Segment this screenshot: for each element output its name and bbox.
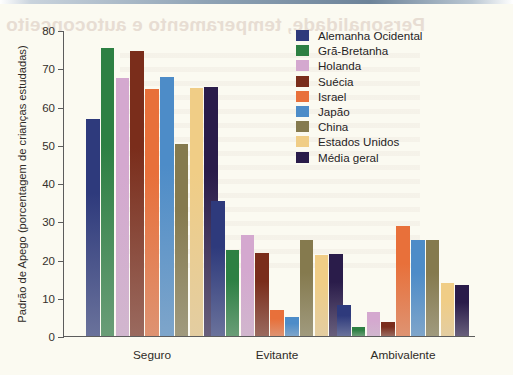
bar (367, 312, 381, 336)
bar (270, 310, 284, 336)
bar (285, 317, 299, 336)
bar (116, 78, 130, 336)
bar-fill (211, 201, 225, 336)
y-axis-title: Padrão de Apego (porcentagem de crianças… (14, 31, 30, 337)
legend-item-label: China (318, 120, 348, 133)
legend-item-label: Japão (318, 105, 350, 118)
y-axis-tick-label: 30 (42, 216, 55, 228)
bar-fill (300, 240, 314, 336)
legend-item: Grã-Bretanha (296, 43, 422, 58)
legend-item-label: Média geral (318, 151, 379, 164)
x-axis-category-label: Evitante (256, 348, 299, 362)
legend-swatch (296, 121, 309, 132)
bar-fill (190, 88, 204, 336)
legend-item-label: Grã-Bretanha (318, 44, 388, 57)
chart-figure: Personalidade, temperamento e autoconcei… (0, 0, 513, 375)
legend: Alemanha OcidentalGrã-BretanhaHolandaSué… (296, 28, 422, 165)
bar (241, 235, 255, 336)
x-axis-category-label: Ambivalente (371, 348, 436, 362)
bar (455, 285, 469, 336)
bar-fill (241, 235, 255, 336)
y-axis-tick-label: 0 (49, 331, 55, 343)
y-axis-tick-label: 10 (42, 293, 55, 305)
bar (352, 327, 366, 336)
bar (337, 305, 351, 336)
bar-fill (86, 119, 100, 336)
bar (145, 89, 159, 336)
legend-item-label: Suécia (318, 75, 353, 88)
bar (130, 51, 144, 336)
legend-item: Suécia (296, 74, 422, 89)
bar-fill (130, 51, 144, 336)
y-axis-tick-label: 60 (42, 102, 55, 114)
bar (190, 88, 204, 336)
x-axis-category-label: Seguro (133, 348, 171, 362)
bar-fill (255, 253, 269, 336)
legend-swatch (296, 76, 309, 87)
legend-swatch (296, 106, 309, 117)
bar (411, 240, 425, 336)
legend-swatch (296, 30, 309, 41)
y-axis-tick (58, 337, 64, 338)
legend-swatch (296, 45, 309, 56)
bar (426, 240, 440, 336)
y-axis-title-text: Padrão de Apego (porcentagem de crianças… (16, 45, 28, 322)
y-axis-tick-label: 40 (42, 178, 55, 190)
bar (396, 226, 410, 336)
bar-fill (160, 77, 174, 336)
bar (175, 144, 189, 336)
bar-fill (285, 317, 299, 336)
legend-item: China (296, 119, 422, 134)
legend-item: Média geral (296, 150, 422, 165)
bar (315, 255, 329, 336)
bar-fill (396, 226, 410, 336)
legend-item: Israel (296, 89, 422, 104)
y-axis-tick-label: 80 (42, 25, 55, 37)
bar-fill (367, 312, 381, 336)
bar-fill (315, 255, 329, 336)
y-axis-tick-label: 50 (42, 140, 55, 152)
bar-fill (175, 144, 189, 336)
legend-item: Japão (296, 104, 422, 119)
bar-fill (426, 240, 440, 336)
legend-swatch (296, 136, 309, 147)
legend-swatch (296, 91, 309, 102)
bar (226, 250, 240, 336)
bar-fill (411, 240, 425, 336)
legend-item: Alemanha Ocidental (296, 28, 422, 43)
y-axis-tick-label: 70 (42, 63, 55, 75)
bar (86, 119, 100, 336)
bar-fill (441, 283, 455, 336)
bar-fill (381, 322, 395, 336)
y-axis-tick-label: 20 (42, 255, 55, 267)
legend-item-label: Holanda (318, 59, 361, 72)
bar-fill (270, 310, 284, 336)
bar-fill (116, 78, 130, 336)
bar (381, 322, 395, 336)
bar (255, 253, 269, 336)
bar (211, 201, 225, 336)
legend-item-label: Israel (318, 90, 346, 103)
bar-fill (145, 89, 159, 336)
bar (101, 48, 115, 336)
legend-item: Holanda (296, 58, 422, 73)
legend-item: Estados Unidos (296, 134, 422, 149)
legend-item-label: Estados Unidos (318, 135, 399, 148)
bar-fill (455, 285, 469, 336)
bar-fill (352, 327, 366, 336)
legend-item-label: Alemanha Ocidental (318, 29, 422, 42)
legend-swatch (296, 152, 309, 163)
bar (441, 283, 455, 336)
bar-fill (337, 305, 351, 336)
bar-fill (101, 48, 115, 336)
bar-fill (226, 250, 240, 336)
legend-swatch (296, 60, 309, 71)
bar (160, 77, 174, 336)
bar-group: Seguro (86, 31, 218, 336)
bar (300, 240, 314, 336)
